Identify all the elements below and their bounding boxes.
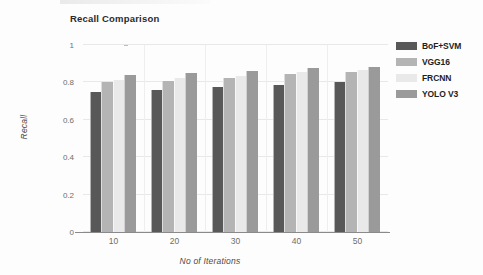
bar-vgg16-40 <box>284 74 296 232</box>
x-tick-label-30: 30 <box>216 236 256 246</box>
x-tick-label-10: 10 <box>94 236 134 246</box>
bar-yolo-v3-10 <box>124 75 136 232</box>
x-tick-label-40: 40 <box>277 236 317 246</box>
legend-item-frcnn[interactable]: FRCNN <box>396 70 482 85</box>
bar-group-30 <box>205 45 266 232</box>
bar-bof-svm-20 <box>151 90 163 232</box>
bar-vgg16-50 <box>345 72 357 232</box>
y-tick-label: 1 <box>52 41 74 50</box>
legend-swatch-icon <box>396 90 417 98</box>
bar-bof-svm-40 <box>273 85 285 232</box>
bar-group-40 <box>266 45 327 232</box>
bar-bof-svm-30 <box>212 87 224 232</box>
x-tick-label-50: 50 <box>338 236 378 246</box>
plot-area <box>83 45 388 232</box>
bar-bof-svm-10 <box>90 92 102 232</box>
y-axis-title: Recall <box>19 97 29 157</box>
x-axis-tick-labels: 1020304050 <box>83 236 388 252</box>
y-tick-label: 0 <box>52 228 74 237</box>
legend-item-label: BoF+SVM <box>422 41 461 51</box>
bar-yolo-v3-40 <box>307 68 319 232</box>
chart-legend: BoF+SVMVGG16FRCNNYOLO V3 <box>396 38 482 102</box>
bar-frcnn-10 <box>113 80 125 232</box>
y-tick-label: 0.2 <box>52 190 74 199</box>
bar-frcnn-50 <box>357 70 369 232</box>
y-tick-label: 0.4 <box>52 153 74 162</box>
x-axis-line <box>75 232 390 233</box>
legend-swatch-icon <box>396 42 417 50</box>
chart-title: Recall Comparison <box>70 13 159 24</box>
legend-swatch-icon <box>396 74 417 82</box>
legend-swatch-icon <box>396 58 417 66</box>
legend-item-yolo-v3[interactable]: YOLO V3 <box>396 86 482 101</box>
bar-group-20 <box>144 45 205 232</box>
y-tick-label: 0.6 <box>52 115 74 124</box>
bar-vgg16-20 <box>162 81 174 232</box>
bar-vgg16-30 <box>223 78 235 232</box>
x-axis-title: No of Iterations <box>0 256 420 266</box>
legend-item-label: VGG16 <box>422 57 450 67</box>
bar-frcnn-20 <box>174 78 186 232</box>
legend-item-bof-svm[interactable]: BoF+SVM <box>396 38 482 53</box>
recall-comparison-chart-figure: Recall Comparison 00.20.40.60.81 1020304… <box>0 0 483 275</box>
legend-item-label: YOLO V3 <box>422 89 458 99</box>
scan-artifact <box>60 0 210 4</box>
bar-frcnn-30 <box>235 76 247 232</box>
bar-yolo-v3-50 <box>368 67 380 232</box>
bar-group-10 <box>83 45 144 232</box>
bar-yolo-v3-30 <box>246 71 258 232</box>
bar-frcnn-40 <box>296 72 308 232</box>
bar-group-50 <box>327 45 388 232</box>
legend-item-vgg16[interactable]: VGG16 <box>396 54 482 69</box>
y-tick-label: 0.8 <box>52 78 74 87</box>
bar-bof-svm-50 <box>334 82 346 232</box>
bar-yolo-v3-20 <box>185 73 197 232</box>
bar-vgg16-10 <box>101 82 113 232</box>
y-axis-tick-labels: 00.20.40.60.81 <box>48 0 74 275</box>
x-tick-label-20: 20 <box>155 236 195 246</box>
legend-item-label: FRCNN <box>422 73 451 83</box>
